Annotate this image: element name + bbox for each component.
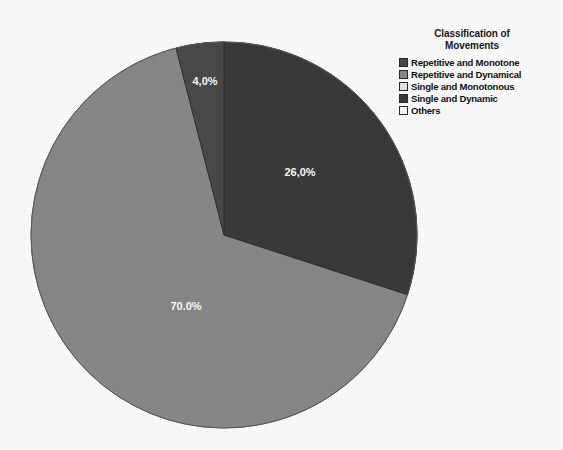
legend-swatch-icon [399, 70, 408, 79]
legend-swatch-icon [399, 82, 408, 91]
legend-item-repetitive-and-dynamical[interactable]: Repetitive and Dynamical [399, 68, 559, 80]
legend-swatch-icon [399, 58, 408, 67]
pie-chart-page: 4,0% 26,0% 70.0% Classification of Movem… [0, 0, 563, 450]
legend-item-label: Repetitive and Monotone [411, 57, 519, 68]
pie-chart-svg: 4,0% 26,0% 70.0% [0, 0, 440, 450]
legend-item-label: Single and Monotonous [411, 81, 514, 92]
legend-item-label: Single and Dynamic [411, 93, 498, 104]
legend-title-line-1: Classification of [399, 28, 545, 40]
legend-item-label: Repetitive and Dynamical [411, 69, 521, 80]
chart-legend: Classification of Movements Repetitive a… [399, 28, 559, 116]
legend-title-line-2: Movements [399, 40, 545, 52]
slice-label-small: 4,0% [192, 75, 217, 87]
pie-chart-area: 4,0% 26,0% 70.0% [0, 0, 440, 450]
legend-item-label: Others [411, 105, 440, 116]
legend-title: Classification of Movements [399, 28, 545, 51]
legend-swatch-icon [399, 106, 408, 115]
slice-label-large: 70.0% [170, 300, 201, 312]
slice-label-right: 26,0% [284, 166, 315, 178]
legend-swatch-icon [399, 94, 408, 103]
legend-item-single-and-monotonous[interactable]: Single and Monotonous [399, 80, 559, 92]
legend-item-repetitive-and-monotone[interactable]: Repetitive and Monotone [399, 56, 559, 68]
legend-item-single-and-dynamic[interactable]: Single and Dynamic [399, 92, 559, 104]
legend-item-others[interactable]: Others [399, 104, 559, 116]
